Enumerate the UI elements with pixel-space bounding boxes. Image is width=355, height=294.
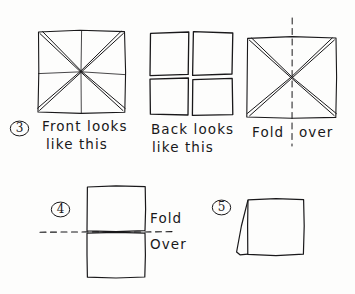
step4-upper-half (87, 186, 146, 232)
caption-front-line2: like this (46, 136, 108, 153)
back-pane-bottom-right (192, 78, 232, 115)
step5-square-outline (248, 199, 305, 256)
label-over-step4: Over (150, 236, 187, 253)
step-4-number-text: 4 (57, 202, 65, 216)
step-5-number-text: 5 (218, 200, 226, 214)
back-pane-bottom-left (150, 78, 188, 115)
caption-front-line1: Front looks (42, 118, 128, 135)
back-pane-top-left (150, 32, 189, 76)
step-number-4: 4 (50, 201, 71, 218)
caption-fold-word: Fold (252, 124, 284, 141)
step-number-3: 3 (9, 120, 30, 137)
diagram-canvas: 3 Front looks like this Back looks like … (0, 0, 355, 294)
caption-back-line2: like this (152, 139, 214, 156)
back-square-diagram (150, 32, 233, 116)
back-pane-top-right (193, 32, 233, 76)
step4-lower-half (87, 232, 145, 278)
step-3-number-text: 3 (16, 121, 24, 135)
label-fold-step4: Fold (150, 210, 182, 227)
step5-shape-diagram (237, 199, 305, 256)
step4-horizontal-dashed-line (40, 232, 174, 233)
caption-back-line1: Back looks (151, 121, 234, 138)
step5-left-flap (237, 201, 248, 255)
step-number-5: 5 (211, 199, 232, 216)
caption-over-word: over (299, 124, 334, 141)
